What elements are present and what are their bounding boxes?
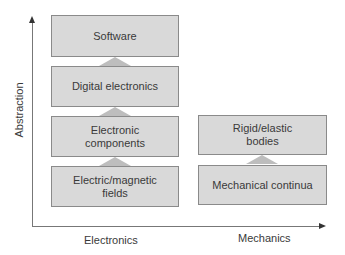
box-rigid-line1: Rigid/elastic — [233, 122, 292, 135]
x-axis — [32, 226, 320, 227]
connector-digital-components — [99, 107, 131, 116]
box-electronic-components-line2: components — [85, 137, 145, 150]
x-axis-arrow-icon — [319, 223, 326, 229]
connector-software-digital — [99, 57, 131, 66]
connector-components-fields — [99, 157, 131, 166]
box-electric-magnetic-fields: Electric/magnetic fields — [51, 166, 179, 207]
box-electronic-components-line1: Electronic — [85, 124, 145, 137]
x-label-electronics: Electronics — [84, 234, 138, 246]
y-axis-label: Abstraction — [13, 80, 25, 140]
box-fields-line2: fields — [73, 187, 157, 200]
box-rigid-elastic-bodies: Rigid/elastic bodies — [198, 115, 327, 155]
box-software: Software — [51, 15, 179, 57]
box-mechanical-continua-label: Mechanical continua — [212, 179, 312, 192]
box-software-label: Software — [93, 30, 136, 43]
x-label-mechanics: Mechanics — [238, 232, 291, 244]
connector-rigid-continua — [246, 155, 278, 164]
box-rigid-line2: bodies — [233, 135, 292, 148]
box-digital-electronics: Digital electronics — [51, 66, 179, 107]
box-electronic-components: Electronic components — [51, 116, 179, 157]
y-axis — [32, 22, 33, 226]
box-digital-electronics-label: Digital electronics — [72, 80, 158, 93]
box-mechanical-continua: Mechanical continua — [198, 165, 327, 205]
box-fields-line1: Electric/magnetic — [73, 174, 157, 187]
y-axis-arrow-icon — [29, 16, 35, 23]
